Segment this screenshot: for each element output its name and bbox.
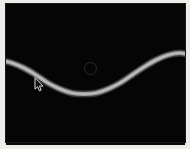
app-root xyxy=(0,0,190,149)
plot-canvas[interactable] xyxy=(6,4,185,142)
canvas-bottom-edge xyxy=(6,143,185,145)
curve-svg xyxy=(6,4,185,142)
